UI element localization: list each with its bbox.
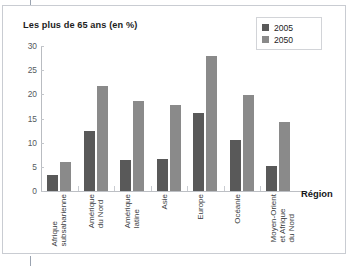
bar-2005[interactable]	[230, 140, 241, 191]
bar-2050[interactable]	[170, 105, 181, 191]
bar-2050[interactable]	[97, 86, 108, 191]
x-axis-category-label: Amériquedu Nord	[87, 194, 105, 228]
bar-group	[266, 46, 292, 191]
legend-item-2050[interactable]: 2050	[262, 34, 316, 45]
bars-layer	[41, 46, 293, 191]
bar-group	[193, 46, 219, 191]
square-swatch-icon	[262, 36, 269, 43]
x-axis-group-separator	[114, 186, 115, 191]
legend-label: 2050	[274, 35, 293, 45]
x-axis-category-label: Asie	[160, 194, 169, 210]
x-axis-line	[41, 191, 307, 192]
bar-2050[interactable]	[243, 95, 254, 191]
figure-frame: Les plus de 65 ans (en %) 2005 2050 0510…	[2, 5, 346, 254]
bar-group	[230, 46, 256, 191]
x-axis-group-separator	[260, 186, 261, 191]
y-axis-tick-label: 25	[17, 65, 37, 75]
x-axis-category-labels: AfriquesubsaharienneAmériquedu NordAméri…	[41, 194, 293, 266]
x-axis-category-label: Moyen-Orientet Afriquedu Nord	[269, 194, 297, 242]
bar-group	[157, 46, 183, 191]
bar-2005[interactable]	[193, 113, 204, 191]
x-axis-title: Région	[301, 188, 333, 199]
x-axis-category-label: Océanie	[233, 194, 242, 224]
legend-label: 2005	[274, 23, 293, 33]
bar-2050[interactable]	[60, 162, 71, 191]
bar-2005[interactable]	[266, 166, 277, 191]
y-axis-tick-label: 0	[17, 186, 37, 196]
bar-2005[interactable]	[84, 131, 95, 191]
x-axis-group-separator	[78, 186, 79, 191]
y-axis-tick-label: 5	[17, 162, 37, 172]
bar-2050[interactable]	[279, 122, 290, 191]
bar-2005[interactable]	[47, 175, 58, 191]
y-axis-tick-label: 30	[17, 41, 37, 51]
x-axis-category-label: Amériquelatine	[123, 194, 141, 228]
x-axis-category-label: Europe	[196, 194, 205, 220]
square-swatch-icon	[262, 24, 269, 31]
y-axis-tick-label: 10	[17, 138, 37, 148]
bar-group	[47, 46, 73, 191]
y-axis-tick-label: 15	[17, 114, 37, 124]
bar-2050[interactable]	[206, 56, 217, 191]
plot-area: 051015202530	[41, 46, 293, 191]
bar-group	[84, 46, 110, 191]
registration-mark-bottom	[30, 256, 31, 266]
bar-2005[interactable]	[157, 159, 168, 191]
x-axis-group-separator	[151, 186, 152, 191]
legend-item-2005[interactable]: 2005	[262, 22, 316, 33]
x-axis-group-separator	[224, 186, 225, 191]
bar-2050[interactable]	[133, 101, 144, 191]
y-axis-tick-label: 20	[17, 89, 37, 99]
x-axis-group-separator	[187, 186, 188, 191]
chart-title: Les plus de 65 ans (en %)	[23, 20, 137, 30]
y-axis-tick-mark	[41, 191, 44, 192]
bar-group	[120, 46, 146, 191]
bar-2005[interactable]	[120, 160, 131, 191]
x-axis-category-label: Afriquesubsaharienne	[50, 194, 68, 246]
